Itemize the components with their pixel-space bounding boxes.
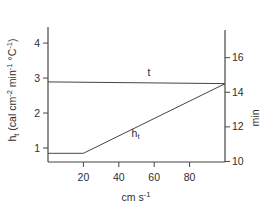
y-left-tick-label: 4	[34, 37, 40, 49]
series-ht-line	[48, 84, 225, 154]
y-right-tick-label: 12	[232, 120, 244, 132]
y-left-tick-label: 3	[34, 72, 40, 84]
x-axis-tick-label: 60	[148, 171, 160, 183]
y-right-tick-label: 10	[232, 155, 244, 167]
y-left-tick-label: 1	[34, 142, 40, 154]
series-t-line	[48, 82, 225, 84]
series-ht-label: ht	[132, 127, 141, 142]
y-right-tick-label: 14	[232, 86, 244, 98]
y-left-tick-label: 2	[34, 107, 40, 119]
series-t-label: t	[147, 66, 150, 78]
x-axis-title: cm s-1	[122, 190, 151, 203]
x-axis-tick-label: 40	[113, 171, 125, 183]
y-left-axis-title: ht (cal cm-2 min-1 °C-1)	[5, 38, 21, 141]
chart-canvas: 20406080123410121416thtcm s-1ht (cal cm-…	[0, 0, 276, 221]
y-right-axis-title: min	[249, 109, 261, 126]
figure: 20406080123410121416thtcm s-1ht (cal cm-…	[0, 0, 276, 221]
x-axis-tick-label: 20	[78, 171, 90, 183]
y-right-tick-label: 16	[232, 51, 244, 63]
x-axis-tick-label: 80	[184, 171, 196, 183]
